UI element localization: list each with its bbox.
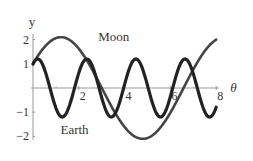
y-tick-label: 1 (23, 57, 29, 71)
x-tick-label: 8 (217, 89, 223, 103)
x-axis-label: θ (230, 80, 237, 95)
y-tick-label: −1 (16, 105, 29, 119)
chart: 2468 21−1−2 θ y Moon Earth (0, 0, 253, 161)
y-axis-label: y (29, 14, 36, 29)
y-tick-label: 2 (23, 33, 29, 47)
series-label-moon: Moon (98, 29, 130, 44)
y-tick-label: −2 (16, 129, 29, 143)
series-label-earth: Earth (60, 122, 89, 137)
x-tick-label: 2 (80, 89, 86, 103)
x-tick-label: 4 (126, 89, 132, 103)
